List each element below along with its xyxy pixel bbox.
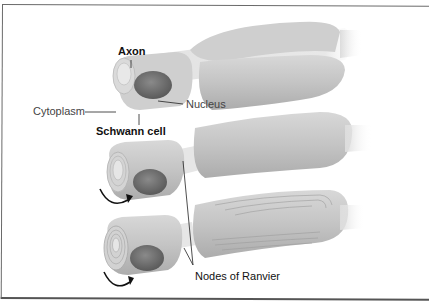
label-axon: Axon [118,46,146,57]
myelination-illustration [0,0,429,301]
label-schwann-cell: Schwann cell [96,126,166,137]
label-cytoplasm: Cytoplasm [33,106,85,117]
label-nodes-of-ranvier: Nodes of Ranvier [195,271,280,282]
stage-1-unmyelinated [113,22,362,110]
label-nucleus: Nucleus [186,99,226,110]
stage-3-myelinated [104,190,365,275]
